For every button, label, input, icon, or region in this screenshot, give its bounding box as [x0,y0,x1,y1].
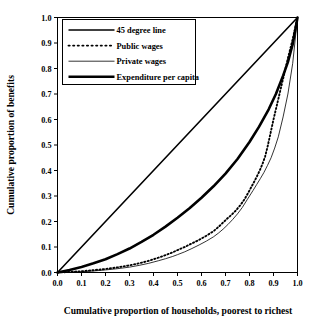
legend-label-45-degree-line: 45 degree line [117,26,166,35]
x-tick-label: 0.0 [52,279,62,288]
y-tick-label: 0.4 [41,167,51,176]
x-axis-title: Cumulative proportion of households, poo… [64,305,293,316]
chart-legend: 45 degree linePublic wagesPrivate wagesE… [63,20,200,85]
y-axis-ticks [54,18,58,273]
x-tick-label: 0.4 [148,279,158,288]
x-tick-label: 1.0 [292,279,302,288]
chart-canvas: 0.00.10.20.30.40.50.60.70.80.91.0 0.00.1… [0,0,316,325]
y-axis-title-group: Cumulative proportion of benefits [5,75,16,215]
x-axis-title-group: Cumulative proportion of households, poo… [64,305,293,316]
y-tick-label: 0.8 [41,65,51,74]
y-tick-label: 0.5 [41,141,51,150]
legend-label-private-wages: Private wages [117,57,167,66]
y-axis-tick-labels: 0.00.10.20.30.40.50.60.70.80.91.0 [41,14,51,278]
x-tick-label: 0.2 [100,279,110,288]
y-tick-label: 0.2 [41,218,51,227]
x-tick-label: 0.1 [76,279,86,288]
x-tick-label: 0.7 [220,279,230,288]
y-tick-label: 0.9 [41,39,51,48]
y-tick-label: 0.3 [41,192,51,201]
y-tick-label: 1.0 [41,14,51,23]
x-tick-label: 0.5 [172,279,182,288]
y-axis-title: Cumulative proportion of benefits [5,75,16,215]
legend-label-public-wages: Public wages [117,42,164,51]
lorenz-curve-chart: 0.00.10.20.30.40.50.60.70.80.91.0 0.00.1… [0,0,316,325]
legend-label-expenditure-per-capita: Expenditure per capita [117,73,200,82]
x-tick-label: 0.6 [196,279,206,288]
x-axis-ticks [58,273,298,277]
y-tick-label: 0.6 [41,116,51,125]
y-tick-label: 0.1 [41,243,51,252]
x-tick-label: 0.8 [244,279,254,288]
y-tick-label: 0.7 [41,90,51,99]
y-tick-label: 0.0 [41,269,51,278]
x-axis-tick-labels: 0.00.10.20.30.40.50.60.70.80.91.0 [52,279,302,288]
x-tick-label: 0.9 [268,279,278,288]
x-tick-label: 0.3 [124,279,134,288]
